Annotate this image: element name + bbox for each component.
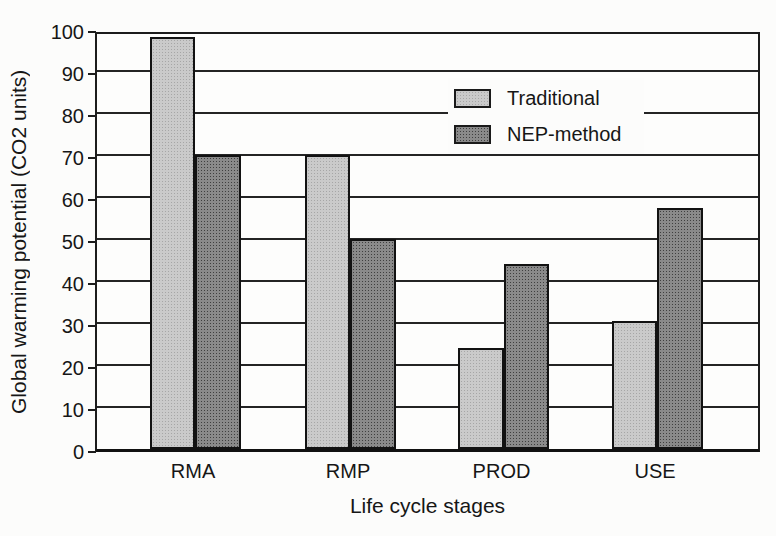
y-tick-mark-40 [88,283,96,285]
y-tick-label-0: 0 [0,438,84,466]
y-tick-label-10: 10 [0,396,84,424]
y-tick-label-20: 20 [0,354,84,382]
bar-chart-figure: Global warming potential (CO2 units) Tra… [0,0,776,536]
y-tick-mark-70 [88,157,96,159]
legend-swatch-traditional-icon [454,89,491,108]
y-tick-mark-20 [88,367,96,369]
x-category-label-rmp: RMP [326,460,370,483]
legend-label-nep-method: NEP-method [507,123,622,146]
gridline-90 [97,70,758,72]
x-axis-title: Life cycle stages [95,494,760,518]
bar-rmp-traditional [305,155,351,449]
bar-rma-traditional [150,37,196,449]
bar-prod-traditional [458,348,504,449]
bar-use-traditional [612,321,658,449]
y-tick-mark-90 [88,73,96,75]
bar-prod-nep-method [504,264,550,449]
y-tick-label-50: 50 [0,228,84,256]
y-tick-label-90: 90 [0,60,84,88]
y-tick-label-60: 60 [0,186,84,214]
y-tick-label-70: 70 [0,144,84,172]
y-tick-label-80: 80 [0,102,84,130]
x-category-label-use: USE [634,460,675,483]
legend-item-traditional: Traditional [454,87,644,110]
y-tick-label-30: 30 [0,312,84,340]
y-tick-label-40: 40 [0,270,84,298]
gridline-80 [97,112,758,114]
legend-label-traditional: Traditional [507,87,600,110]
y-tick-mark-100 [88,31,96,33]
y-tick-mark-10 [88,409,96,411]
bar-rmp-nep-method [350,239,396,449]
y-tick-mark-30 [88,325,96,327]
bar-rma-nep-method [195,155,241,449]
y-tick-mark-80 [88,115,96,117]
bar-use-nep-method [657,208,703,450]
y-tick-mark-0 [88,451,96,453]
y-tick-mark-50 [88,241,96,243]
y-tick-mark-60 [88,199,96,201]
x-category-label-rma: RMA [171,460,215,483]
legend-item-nep-method: NEP-method [454,123,644,146]
legend-swatch-nep-method-icon [454,125,491,144]
plot-area: TraditionalNEP-method [95,32,760,452]
y-tick-label-100: 100 [0,18,84,46]
x-category-label-prod: PROD [473,460,531,483]
legend: TraditionalNEP-method [448,78,644,154]
